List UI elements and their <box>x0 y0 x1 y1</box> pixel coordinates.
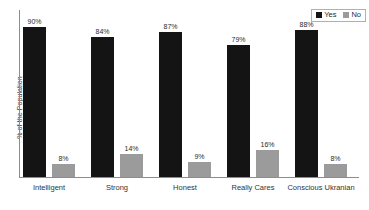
bar-value-label: 79% <box>231 35 245 44</box>
bar-no[interactable]: 8% <box>324 164 347 177</box>
bar-value-label: 16% <box>260 140 274 149</box>
x-axis-line <box>19 177 359 178</box>
bar-yes[interactable]: 79% <box>227 45 250 177</box>
bar-yes[interactable]: 88% <box>295 30 318 177</box>
bar-value-label: 8% <box>330 154 340 163</box>
bar-no[interactable]: 8% <box>52 164 75 177</box>
bar-group: 79%16% <box>227 10 279 177</box>
category-label-really-cares: Really Cares <box>232 183 275 192</box>
bar-no[interactable]: 16% <box>256 150 279 177</box>
bar-no[interactable]: 9% <box>188 162 211 177</box>
category-label-intelligent: Intelligent <box>33 183 65 192</box>
legend-item-no[interactable]: No <box>343 11 361 19</box>
bar-value-label: 8% <box>58 154 68 163</box>
bar-value-label: 87% <box>163 22 177 31</box>
plot-area: 90%8%84%14%87%9%79%16%88%8% <box>19 10 359 178</box>
bar-no[interactable]: 14% <box>120 154 143 177</box>
bar-value-label: 14% <box>124 144 138 153</box>
bar-yes[interactable]: 87% <box>159 32 182 177</box>
bar-group: 90%8% <box>23 10 75 177</box>
legend: YesNo <box>311 9 366 22</box>
bar-value-label: 90% <box>27 17 41 26</box>
legend-label: No <box>351 11 361 19</box>
bar-value-label: 9% <box>194 152 204 161</box>
legend-swatch-icon <box>343 12 349 18</box>
bar-group: 84%14% <box>91 10 143 177</box>
category-label-honest: Honest <box>173 183 197 192</box>
legend-label: Yes <box>324 11 336 19</box>
bar-value-label: 84% <box>95 27 109 36</box>
category-label-strong: Strong <box>106 183 128 192</box>
bar-group: 87%9% <box>159 10 211 177</box>
bar-group: 88%8% <box>295 10 347 177</box>
legend-item-yes[interactable]: Yes <box>316 11 336 19</box>
y-axis-line <box>19 10 20 178</box>
bar-yes[interactable]: 84% <box>91 37 114 177</box>
category-label-conscious-ukranian: Conscious Ukranian <box>287 183 354 192</box>
bar-yes[interactable]: 90% <box>23 27 46 177</box>
legend-swatch-icon <box>316 12 322 18</box>
bar-chart: % of the Population 90%8%84%14%87%9%79%1… <box>0 0 369 210</box>
